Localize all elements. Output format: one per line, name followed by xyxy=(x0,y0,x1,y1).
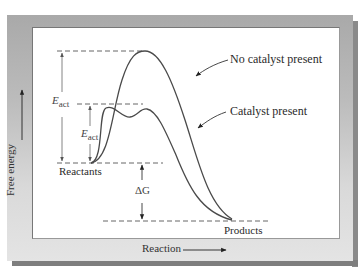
y-axis-label: Free energy xyxy=(4,144,16,196)
x-axis-label: Reaction xyxy=(142,242,181,254)
delta-g-label: ΔG xyxy=(135,184,150,196)
eact-subscript: act xyxy=(59,99,70,109)
products-label: Products xyxy=(224,224,263,236)
reactants-label: Reactants xyxy=(59,165,102,177)
energy-diagram xyxy=(0,0,362,278)
leader-catalyst xyxy=(198,112,226,128)
eact-subscript: act xyxy=(88,132,99,142)
leader-no-catalyst xyxy=(196,60,228,76)
eact-catalyzed-label: Eact xyxy=(81,127,98,142)
eact-symbol: E xyxy=(52,94,59,106)
eact-symbol: E xyxy=(81,127,88,139)
eact-uncatalyzed-label: Eact xyxy=(52,94,69,109)
no-catalyst-label: No catalyst present xyxy=(230,52,322,67)
catalyst-label: Catalyst present xyxy=(230,104,307,119)
curve-no-catalyst xyxy=(91,51,232,219)
